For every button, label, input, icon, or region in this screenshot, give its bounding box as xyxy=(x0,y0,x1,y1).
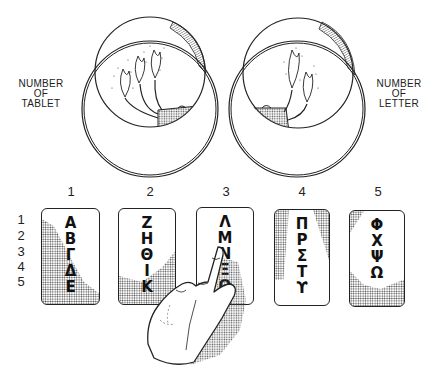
pointing-hand-icon xyxy=(0,0,434,375)
polybius-torch-signal-illustration: NUMBER OF TABLET NUMBER OF LETTER 1 2 3 … xyxy=(0,0,434,375)
